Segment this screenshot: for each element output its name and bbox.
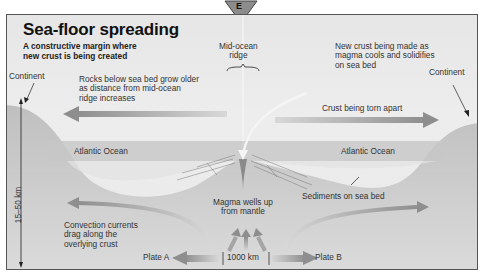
label-plate-b: Plate B [315,253,342,262]
label-sediments: Sediments on sea bed [302,192,385,201]
label-crust-torn: Crust being torn apart [322,104,402,113]
label-depth-scale: 15–50 km [13,187,23,223]
label-distance-scale: 1000 km [227,253,259,262]
label-plate-a: Plate A [143,253,169,262]
diagram-title: Sea-floor spreading [23,20,179,40]
diagram-frame: Sea-floor spreading A constructive margi… [6,14,478,270]
label-continent-right: Continent [429,68,465,77]
diagram-subtitle: A constructive margin where new crust is… [23,42,137,61]
label-convection: Convection currents drag along the overl… [64,221,138,249]
label-rocks-older: Rocks below sea bed grow older as distan… [79,75,199,103]
label-ocean-right: Atlantic Ocean [341,147,395,156]
label-new-crust: New crust being made as magma cools and … [335,42,435,70]
section-badge-letter: E [236,1,242,11]
label-continent-left: Continent [9,72,45,81]
label-ocean-left: Atlantic Ocean [74,147,128,156]
label-magma-wells: Magma wells up from mantle [213,198,273,217]
label-mid-ocean-ridge: Mid-ocean ridge [219,42,258,61]
